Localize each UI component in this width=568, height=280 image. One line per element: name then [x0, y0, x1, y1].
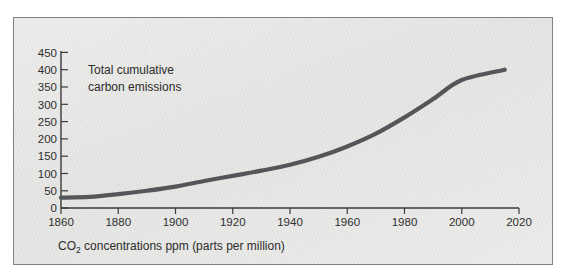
annotation-line-2: carbon emissions: [88, 80, 181, 94]
x-axis-ticks: [61, 208, 519, 214]
y-tick-label: 100: [38, 168, 57, 180]
y-tick-label: 150: [38, 150, 57, 162]
y-tick-label: 250: [38, 116, 57, 128]
x-tick-label: 1980: [392, 216, 418, 228]
chart-panel: 450 400 350 300 250 200 150 100 50 0: [13, 17, 553, 265]
x-axis-labels: 1860 1880 1900 1920 1940 1960 1980 2000 …: [48, 216, 532, 228]
y-axis-ticks: [61, 52, 68, 208]
figure-root: 450 400 350 300 250 200 150 100 50 0: [0, 0, 568, 280]
x-tick-label: 1920: [220, 216, 246, 228]
y-tick-label: 400: [38, 64, 57, 76]
y-tick-label: 50: [44, 185, 57, 197]
x-tick-label: 1960: [334, 216, 360, 228]
line-chart: 450 400 350 300 250 200 150 100 50 0: [14, 18, 554, 266]
caption-suffix: concentrations ppm (parts per million): [81, 239, 285, 253]
x-tick-label: 1900: [163, 216, 189, 228]
x-tick-label: 1880: [105, 216, 131, 228]
y-tick-label: 0: [51, 202, 57, 214]
y-tick-label: 350: [38, 81, 57, 93]
x-tick-label: 1940: [277, 216, 303, 228]
y-tick-label: 300: [38, 99, 57, 111]
x-tick-label: 1860: [48, 216, 74, 228]
y-tick-label: 200: [38, 133, 57, 145]
x-tick-label: 2000: [449, 216, 475, 228]
x-axis-caption: CO2 concentrations ppm (parts per millio…: [58, 239, 285, 255]
y-tick-label: 450: [38, 47, 57, 59]
annotation-line-1: Total cumulative: [88, 63, 174, 77]
caption-prefix: CO: [58, 239, 76, 253]
x-tick-label: 2020: [506, 216, 532, 228]
y-axis-labels: 450 400 350 300 250 200 150 100 50 0: [38, 47, 57, 215]
